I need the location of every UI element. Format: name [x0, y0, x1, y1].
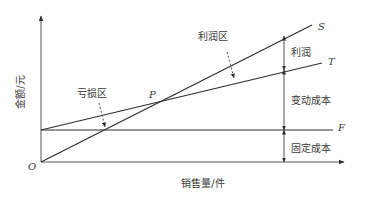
- total-cost-line-label: T: [328, 56, 336, 67]
- profit-zone-label: 利润区: [198, 30, 228, 42]
- variable-cost-dimension-label: 变动成本: [291, 94, 331, 106]
- break-even-point-label: P: [148, 89, 156, 100]
- loss-zone-label: 亏损区: [77, 87, 107, 99]
- break-even-diagram: 金额/元 销售量/件 O S T F P 利润区 亏损区 利润 变动成本 固定成…: [0, 0, 365, 197]
- x-axis-label: 销售量/件: [181, 177, 224, 189]
- profit-dimension-label: 利润: [291, 46, 311, 58]
- fixed-cost-dimension-label: 固定成本: [291, 142, 331, 154]
- origin-label: O: [28, 161, 36, 172]
- y-axis-label: 金额/元: [14, 75, 26, 108]
- fixed-cost-line-label: F: [337, 122, 346, 133]
- sales-line-label: S: [318, 21, 325, 32]
